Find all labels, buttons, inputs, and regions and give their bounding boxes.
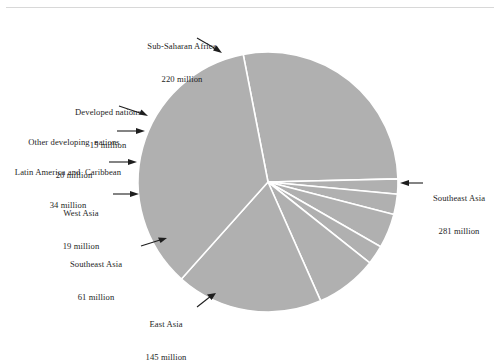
leader-arrow-latin-america-caribbean (108, 155, 138, 167)
callout-value-east-asia: 145 million (122, 352, 210, 363)
leader-arrow-southeast-asia-281 (400, 177, 424, 189)
leader-arrow-other-developing-nations (116, 124, 146, 136)
callout-label-southeast-asia-281: Southeast Asia (420, 193, 498, 204)
leader-arrow-sub-saharan-africa (196, 36, 224, 54)
callout-label-latin-america-caribbean: Latin America and Caribbean (1, 167, 135, 178)
callout-southeast-asia-281: Southeast Asia 281 million (420, 171, 498, 259)
callout-value-southeast-asia-281: 281 million (420, 226, 498, 237)
callout-label-east-asia: East Asia (122, 319, 210, 330)
leader-arrow-southeast-asia-61 (140, 236, 168, 250)
leader-arrow-east-asia (196, 292, 218, 310)
leader-arrow-west-asia (112, 188, 140, 200)
callout-label-southeast-asia-61: Southeast Asia (48, 259, 144, 270)
callout-value-sub-saharan-africa: 220 million (128, 74, 236, 85)
callout-label-west-asia: West Asia (44, 208, 118, 219)
pie-slice (243, 52, 398, 182)
